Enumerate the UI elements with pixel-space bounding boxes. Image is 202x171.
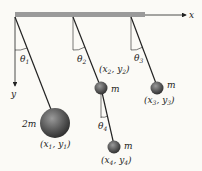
mass-3-label: m [167, 80, 176, 90]
mass-2-label: m [111, 84, 120, 94]
rod-1 [15, 17, 52, 112]
mass-1-coord: (x1, y1) [40, 139, 71, 150]
mass-2-ball [95, 82, 108, 95]
mass-1-ball [40, 108, 70, 138]
angle-arc-4 [101, 116, 108, 117]
theta-3-label: θ3 [134, 53, 143, 64]
mass-3-coord: (x3, y3) [144, 95, 175, 106]
angle-arc-1 [15, 48, 27, 50]
rod-3 [131, 17, 157, 86]
mass-1-label: 2m [21, 119, 36, 129]
y-axis-label: y [10, 89, 17, 99]
mass-3-ball [151, 82, 164, 95]
theta-4-label: θ4 [98, 121, 107, 132]
mass-4-label: m [124, 141, 133, 151]
mass-4-ball [108, 141, 121, 154]
angle-arc-3 [131, 47, 143, 50]
x-axis-label: x [189, 10, 194, 20]
mass-4-coord: (x4, y4) [101, 155, 132, 166]
angle-arc-2 [73, 47, 85, 50]
ceiling-beam [15, 12, 145, 17]
theta-1-label: θ1 [20, 54, 29, 65]
mass-2-coord: (x2, y2) [99, 64, 130, 75]
rod-2 [73, 17, 101, 88]
theta-2-label: θ2 [77, 54, 86, 65]
pendulum-diagram: x y θ1 2m (x1, y1) θ2 (x2, y2) θ3 m (x3,… [0, 0, 202, 171]
